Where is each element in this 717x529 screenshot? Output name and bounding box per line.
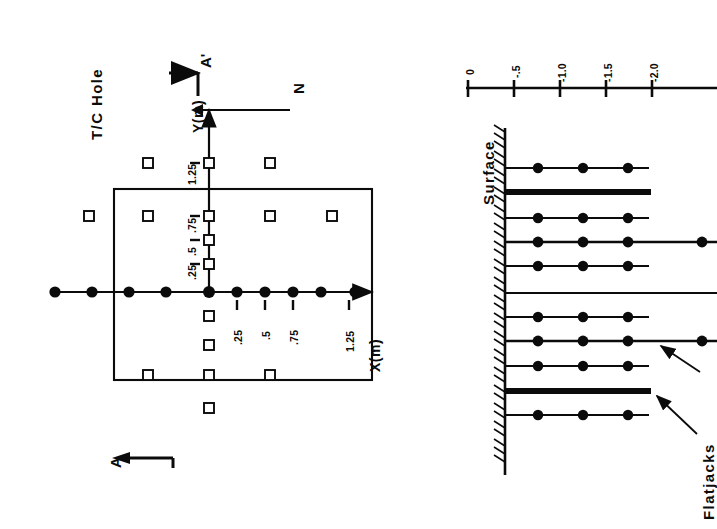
y-tick-0: .25 [186, 265, 198, 280]
north-label: N [290, 82, 307, 94]
x-tick-2: .75 [288, 330, 300, 345]
hole-row [505, 336, 717, 347]
hole-row [505, 237, 717, 248]
x-tick-0: .25 [232, 330, 244, 345]
y-tick-3: 1.25 [186, 164, 198, 185]
x-tick-1: .5 [260, 331, 272, 340]
figure-root: T/C Hole Y(m) X(m) N A' A .25 .5 .75 1.2… [0, 0, 717, 529]
hole-row [505, 312, 649, 322]
section-label-a-prime: A' [197, 54, 214, 68]
section-marker-a-prime [169, 72, 198, 96]
y-tick-1: .5 [186, 247, 198, 256]
depth-tick-1: -.5 [510, 65, 522, 78]
x-axis-label: X(m) [367, 339, 383, 372]
section-hole-rows [505, 163, 717, 420]
hole-row [505, 163, 649, 173]
hole-row [505, 213, 649, 223]
x-tick-3: 1.25 [344, 331, 356, 352]
hole-row [505, 361, 649, 371]
y-tick-2: .75 [186, 218, 198, 233]
depth-tick-2: -1.0 [556, 63, 568, 82]
plan-instrument-hole-markers [84, 158, 337, 413]
depth-tick-0: 0 [464, 69, 476, 75]
tc-hole-title: T/C Hole [88, 68, 105, 140]
flatjacks-leader [657, 346, 700, 434]
section-label-a: A [107, 457, 124, 468]
flatjacks-label: Flatjacks [700, 443, 717, 520]
depth-tick-3: -1.5 [602, 63, 614, 82]
hole-row [505, 261, 649, 271]
depth-tick-4: -2.0 [648, 63, 660, 82]
depth-axis [466, 80, 717, 97]
surface-label: Surface [480, 140, 497, 205]
y-axis-label: Y(m) [190, 100, 206, 133]
hole-row [505, 410, 649, 420]
